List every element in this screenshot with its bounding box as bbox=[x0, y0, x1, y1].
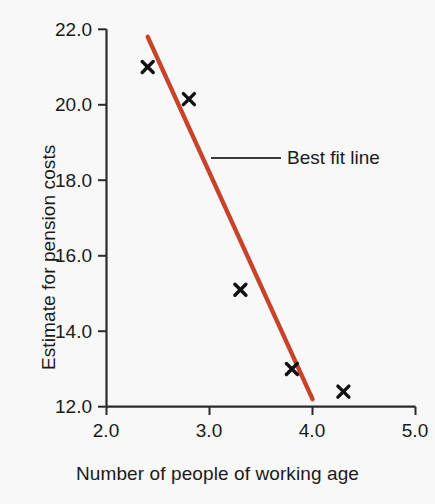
y-axis-title: Estimate for pension costs bbox=[38, 145, 60, 370]
data-point-2 bbox=[183, 94, 194, 105]
best-fit-line bbox=[148, 37, 313, 399]
y-tick-label-22: 22.0 bbox=[36, 19, 92, 41]
data-point-5 bbox=[338, 386, 349, 397]
scatter-chart: 22.0 20.0 18.0 16.0 14.0 12.0 2.0 3.0 4.… bbox=[0, 0, 435, 504]
data-point-3 bbox=[235, 284, 246, 295]
x-tick-label-3: 3.0 bbox=[179, 420, 239, 442]
x-axis-ticks bbox=[107, 407, 416, 415]
x-axis-title: Number of people of working age bbox=[0, 463, 435, 485]
legend-label-best-fit-line: Best fit line bbox=[287, 147, 380, 169]
y-axis-ticks bbox=[98, 29, 107, 406]
y-tick-label-12: 12.0 bbox=[36, 396, 92, 418]
data-point-1 bbox=[142, 62, 153, 73]
y-tick-label-20: 20.0 bbox=[36, 94, 92, 116]
data-point-markers bbox=[142, 62, 349, 398]
x-tick-label-4: 4.0 bbox=[282, 420, 342, 442]
x-tick-label-2: 2.0 bbox=[76, 420, 136, 442]
data-point-4 bbox=[286, 363, 297, 374]
x-tick-label-5: 5.0 bbox=[385, 420, 435, 442]
